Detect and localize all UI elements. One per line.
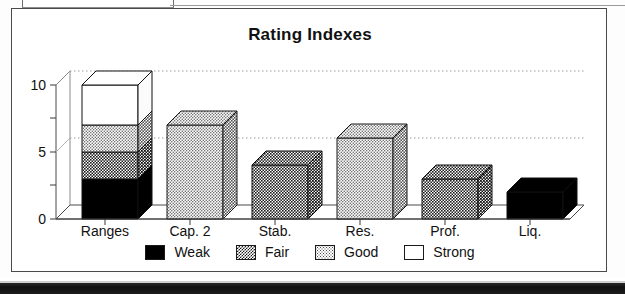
legend-swatch-weak-icon xyxy=(145,245,165,260)
bar-ranges xyxy=(82,71,152,219)
x-axis-label-ranges: Ranges xyxy=(62,223,148,239)
legend-item-weak[interactable]: Weak xyxy=(145,244,210,260)
bar-res xyxy=(337,124,407,219)
y-axis-label-0: 0 xyxy=(20,211,46,227)
legend-swatch-strong-icon xyxy=(404,245,424,260)
scan-artifact-top-frame xyxy=(22,0,174,8)
chart-legend: Weak Fair Good Strong xyxy=(12,244,608,260)
y-axis-label-10: 10 xyxy=(20,77,46,93)
bar-liq xyxy=(507,178,577,219)
scan-artifact-top-rule xyxy=(170,5,625,6)
bar-cap-2 xyxy=(167,111,237,219)
x-axis-label-prof: Prof. xyxy=(402,223,488,239)
y-axis-label-5: 5 xyxy=(20,144,46,160)
x-axis-label-res: Res. xyxy=(317,223,403,239)
bar-stab xyxy=(252,151,322,219)
x-axis-label-stab: Stab. xyxy=(232,223,318,239)
legend-label-fair: Fair xyxy=(265,244,289,260)
axis-walls xyxy=(56,71,70,219)
chart-container: Rating Indexes xyxy=(11,8,607,272)
legend-label-weak: Weak xyxy=(174,244,210,260)
legend-swatch-good-icon xyxy=(315,245,335,260)
legend-item-strong[interactable]: Strong xyxy=(404,244,474,260)
x-axis-label-liq: Liq. xyxy=(487,223,573,239)
legend-item-good[interactable]: Good xyxy=(315,244,378,260)
scan-artifact-bottom-band xyxy=(0,277,625,294)
bar-prof xyxy=(422,165,492,219)
plot-area: 10 5 0 Ranges Cap. 2 Stab. Res. Prof. Li… xyxy=(12,9,608,273)
legend-label-strong: Strong xyxy=(433,244,474,260)
scanned-page: Rating Indexes xyxy=(0,0,625,294)
y-axis-ticks xyxy=(50,85,56,219)
legend-swatch-fair-icon xyxy=(236,245,256,260)
x-axis-label-cap-2: Cap. 2 xyxy=(147,223,233,239)
legend-label-good: Good xyxy=(344,244,378,260)
legend-item-fair[interactable]: Fair xyxy=(236,244,289,260)
